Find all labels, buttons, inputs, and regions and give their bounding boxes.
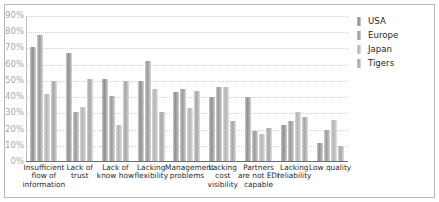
y-axis-tick-labels: 90%80%70%60%50%40%30%20%10%0% bbox=[0, 16, 24, 162]
bar bbox=[138, 81, 144, 162]
y-tick-label: 90% bbox=[0, 11, 24, 19]
y-axis-line bbox=[26, 16, 27, 162]
bar bbox=[216, 87, 222, 162]
bar-group bbox=[62, 16, 98, 162]
bar bbox=[187, 108, 193, 162]
y-tick-label: 30% bbox=[0, 108, 24, 116]
y-tick-label: 70% bbox=[0, 43, 24, 51]
bar bbox=[295, 112, 301, 162]
bar bbox=[230, 121, 236, 162]
x-tick-label: Low quality bbox=[308, 164, 352, 172]
bar-group bbox=[26, 16, 62, 162]
bar bbox=[317, 143, 323, 162]
bar bbox=[338, 146, 344, 162]
legend-label: Europe bbox=[368, 31, 398, 40]
bar-group bbox=[312, 16, 348, 162]
bar bbox=[266, 128, 272, 162]
bar bbox=[252, 131, 258, 162]
bar-group bbox=[133, 16, 169, 162]
y-tick-label: 80% bbox=[0, 27, 24, 35]
legend-label: USA bbox=[368, 17, 386, 26]
legend-item[interactable]: Tigers bbox=[357, 56, 431, 70]
bar-group bbox=[98, 16, 134, 162]
bar bbox=[159, 112, 165, 162]
x-axis-line bbox=[26, 161, 348, 162]
x-axis-category-labels: Insufficient flow of informationLack of … bbox=[26, 163, 348, 200]
bar bbox=[331, 120, 337, 162]
bar-group bbox=[205, 16, 241, 162]
bar bbox=[180, 89, 186, 162]
bar bbox=[245, 97, 251, 162]
bar bbox=[66, 53, 72, 162]
legend-swatch-icon bbox=[357, 59, 361, 68]
bar bbox=[80, 107, 86, 162]
y-tick-label: 10% bbox=[0, 141, 24, 149]
bar bbox=[44, 94, 50, 162]
bar-group bbox=[276, 16, 312, 162]
bar-chart: 90%80%70%60%50%40%30%20%10%0% Insufficie… bbox=[0, 0, 439, 202]
bar bbox=[173, 92, 179, 162]
legend-label: Tigers bbox=[368, 59, 394, 68]
bar-group bbox=[241, 16, 277, 162]
bar bbox=[288, 121, 294, 162]
bar bbox=[152, 89, 158, 162]
bar bbox=[194, 91, 200, 162]
bar bbox=[73, 112, 79, 162]
legend-swatch-icon bbox=[357, 45, 361, 54]
bar-group bbox=[169, 16, 205, 162]
bar bbox=[30, 47, 36, 162]
legend-item[interactable]: Japan bbox=[357, 42, 431, 56]
bar bbox=[116, 125, 122, 162]
plot-area bbox=[26, 16, 348, 162]
bar bbox=[209, 97, 215, 162]
bar bbox=[87, 79, 93, 162]
bar bbox=[123, 81, 129, 162]
y-tick-label: 50% bbox=[0, 76, 24, 84]
bar bbox=[324, 130, 330, 162]
legend-label: Japan bbox=[368, 45, 392, 54]
y-tick-label: 40% bbox=[0, 92, 24, 100]
bar bbox=[102, 79, 108, 162]
y-tick-label: 60% bbox=[0, 60, 24, 68]
y-tick-label: 0% bbox=[0, 157, 24, 165]
bar bbox=[145, 61, 151, 162]
bar bbox=[37, 35, 43, 162]
bar bbox=[109, 96, 115, 163]
bar bbox=[302, 117, 308, 162]
legend-item[interactable]: USA bbox=[357, 14, 431, 28]
legend-swatch-icon bbox=[357, 31, 361, 40]
bar bbox=[223, 87, 229, 162]
y-tick-label: 20% bbox=[0, 125, 24, 133]
legend-swatch-icon bbox=[357, 17, 361, 26]
legend-item[interactable]: Europe bbox=[357, 28, 431, 42]
bar bbox=[281, 125, 287, 162]
bar bbox=[259, 134, 265, 162]
chart-legend: USAEuropeJapanTigers bbox=[357, 14, 431, 70]
bar bbox=[51, 81, 57, 162]
